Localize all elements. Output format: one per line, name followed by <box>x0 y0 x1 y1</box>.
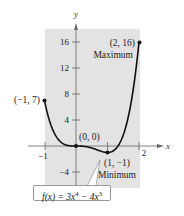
formula-exp2: 3 <box>99 190 102 197</box>
label-minimum: Minimum <box>98 170 137 180</box>
y-tick-16: 16 <box>60 37 70 47</box>
y-tick-neg4: −4 <box>59 167 69 177</box>
formula-prefix: f(x) = 3x <box>42 192 75 202</box>
formula-box: f(x) = 3x4 − 4x3 <box>33 185 111 201</box>
label-maximum: Maximum <box>93 50 133 60</box>
y-tick-12: 12 <box>60 63 69 73</box>
label-point-1-neg1: (1, −1) <box>104 158 130 169</box>
label-point-0-0: (0, 0) <box>79 132 100 143</box>
y-axis-label: y <box>73 9 78 19</box>
point-0-0 <box>74 144 78 148</box>
y-tick-8: 8 <box>65 89 70 99</box>
point-neg1-7 <box>43 99 47 103</box>
y-axis-arrow-icon <box>74 23 78 30</box>
label-point-neg1-7: (−1, 7) <box>14 95 40 106</box>
x-axis-label: x <box>165 141 170 151</box>
x-tick-neg1: −1 <box>38 151 48 161</box>
function-graph: x y 16 12 8 4 −4 −1 2 (−1, 7) (0, 0) (1,… <box>0 0 184 216</box>
x-axis-arrow-icon <box>157 144 164 148</box>
point-2-16 <box>138 41 142 45</box>
x-tick-2: 2 <box>142 148 147 158</box>
point-1-neg1 <box>106 151 110 155</box>
formula-mid: − 4x <box>79 192 99 202</box>
y-tick-4: 4 <box>65 115 70 125</box>
label-point-2-16: (2, 16) <box>110 38 135 49</box>
